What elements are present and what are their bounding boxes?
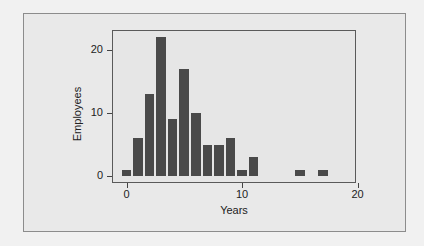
histogram-bar bbox=[294, 170, 306, 176]
histogram-bar bbox=[225, 138, 237, 176]
histogram-bar bbox=[144, 94, 156, 176]
histogram-bar bbox=[317, 170, 329, 176]
y-axis-label: Employees bbox=[71, 74, 83, 154]
histogram-bar bbox=[236, 170, 248, 176]
y-tick-label: 10 bbox=[83, 106, 103, 118]
y-tick bbox=[107, 176, 112, 177]
histogram-bar bbox=[121, 170, 133, 176]
histogram-bar bbox=[155, 37, 167, 176]
histogram-bar bbox=[178, 69, 190, 176]
x-tick-label: 0 bbox=[117, 188, 137, 200]
histogram-bar bbox=[190, 113, 202, 176]
y-tick-label: 20 bbox=[83, 43, 103, 55]
histogram-bar bbox=[213, 145, 225, 177]
histogram-bar bbox=[248, 157, 260, 176]
histogram-bar bbox=[167, 119, 179, 176]
x-tick-label: 20 bbox=[348, 188, 368, 200]
y-tick bbox=[107, 113, 112, 114]
x-axis-label: Years bbox=[204, 204, 264, 216]
histogram-bar bbox=[202, 145, 214, 177]
y-tick bbox=[107, 50, 112, 51]
y-tick-label: 0 bbox=[83, 169, 103, 181]
x-tick-label: 10 bbox=[232, 188, 252, 200]
histogram-bar bbox=[132, 138, 144, 176]
